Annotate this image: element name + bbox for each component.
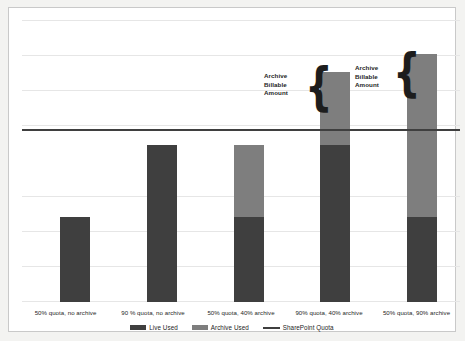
curly-brace-icon-2: { bbox=[393, 46, 421, 98]
annotation-line-3: Amount bbox=[264, 89, 288, 98]
gridline bbox=[22, 20, 460, 21]
x-axis-label-4: 50% quota, 90% archive bbox=[373, 308, 460, 318]
annotation-line-2: Billable bbox=[355, 73, 379, 82]
legend-label-live-used: Live Used bbox=[149, 324, 177, 331]
annotation-line-1: Archive bbox=[264, 72, 288, 81]
bar-segment-live-used bbox=[320, 145, 350, 302]
annotation-archive-billable-amount-2: Archive Billable Amount bbox=[355, 64, 379, 90]
legend-item-sharepoint-quota[interactable]: SharePoint Quota bbox=[263, 324, 334, 331]
annotation-line-1: Archive bbox=[355, 64, 379, 73]
x-axis-label-2: 50% quota, 40% archive bbox=[197, 308, 285, 318]
x-axis-label-3: 90% quota, 40% archive bbox=[285, 308, 373, 318]
bar-segment-archive-used bbox=[234, 145, 264, 217]
bar-segment-live-used bbox=[234, 217, 264, 302]
gridline bbox=[22, 125, 460, 126]
legend-swatch-icon-archive-used bbox=[192, 325, 208, 330]
chart-screenshot: Archive Billable Amount { Archive Billab… bbox=[0, 0, 465, 341]
plot-area: Archive Billable Amount { Archive Billab… bbox=[22, 20, 460, 302]
sharepoint-quota-line bbox=[22, 129, 460, 131]
bar-50-quota-40-archive[interactable] bbox=[234, 145, 264, 302]
bar-50-quota-no-archive[interactable] bbox=[60, 217, 90, 302]
chart-frame: Archive Billable Amount { Archive Billab… bbox=[8, 7, 456, 332]
bar-segment-live-used bbox=[407, 217, 437, 302]
legend-label-archive-used: Archive Used bbox=[211, 324, 249, 331]
annotation-line-3: Amount bbox=[355, 81, 379, 90]
bar-90-quota-no-archive[interactable] bbox=[147, 145, 177, 302]
legend-label-sharepoint-quota: SharePoint Quota bbox=[283, 324, 334, 331]
x-axis-labels: 50% quota, no archive 90 % quota, no arc… bbox=[22, 308, 460, 320]
legend-item-live-used[interactable]: Live Used bbox=[130, 324, 177, 331]
annotation-archive-billable-amount-1: Archive Billable Amount bbox=[264, 72, 288, 98]
bar-segment-live-used bbox=[147, 145, 177, 302]
legend-line-icon-sharepoint-quota bbox=[263, 327, 280, 329]
x-axis-label-0: 50% quota, no archive bbox=[22, 308, 109, 318]
legend-swatch-icon-live-used bbox=[130, 325, 146, 330]
curly-brace-icon-1: { bbox=[305, 60, 333, 112]
legend-item-archive-used[interactable]: Archive Used bbox=[192, 324, 249, 331]
annotation-line-2: Billable bbox=[264, 81, 288, 90]
bar-segment-live-used bbox=[60, 217, 90, 302]
x-axis-label-1: 90 % quota, no archive bbox=[109, 308, 197, 318]
chart-legend: Live Used Archive Used SharePoint Quota bbox=[9, 324, 455, 331]
